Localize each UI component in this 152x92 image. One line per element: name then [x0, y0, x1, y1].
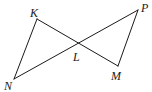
label-n: N: [3, 79, 13, 92]
segment-kn: [14, 19, 37, 79]
label-k: K: [29, 6, 39, 20]
label-m: M: [110, 69, 122, 83]
geometry-diagram: K N L P M: [0, 0, 152, 92]
label-l: L: [72, 50, 80, 64]
segment-pm: [118, 10, 138, 66]
label-p: P: [140, 1, 149, 15]
